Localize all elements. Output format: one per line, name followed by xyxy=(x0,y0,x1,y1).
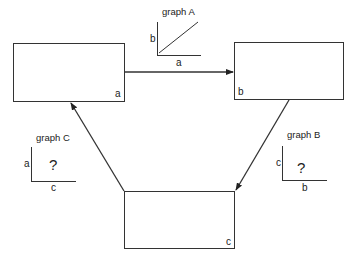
graph-b-title: graph B xyxy=(287,129,320,140)
box-b-label: b xyxy=(238,86,244,97)
graph-c-question-mark: ? xyxy=(49,156,57,173)
arrow-b-to-c xyxy=(236,100,289,190)
graph-a-title: graph A xyxy=(162,6,195,17)
graph-b: graph B ? c b xyxy=(276,129,327,193)
graph-b-question-mark: ? xyxy=(297,159,305,176)
graph-c-y-label: a xyxy=(24,158,30,169)
graph-c-title: graph C xyxy=(36,132,70,143)
box-c: c xyxy=(125,192,235,249)
graph-a-y-label: b xyxy=(150,33,156,44)
box-a: a xyxy=(14,44,125,102)
box-c-label: c xyxy=(226,236,231,247)
box-a-label: a xyxy=(115,88,121,99)
graph-c-x-label: c xyxy=(51,182,56,193)
cycle-diagram: a b c graph A b a graph B ? c b graph C … xyxy=(0,0,353,262)
arrow-c-to-a xyxy=(71,103,124,191)
graph-a-x-label: a xyxy=(176,57,182,68)
graph-a-line xyxy=(159,22,198,53)
graph-a: graph A b a xyxy=(150,6,201,68)
graph-b-x-label: b xyxy=(302,182,308,193)
box-b: b xyxy=(235,43,344,100)
graph-c: graph C ? a c xyxy=(24,132,76,193)
graph-b-y-label: c xyxy=(276,157,281,168)
